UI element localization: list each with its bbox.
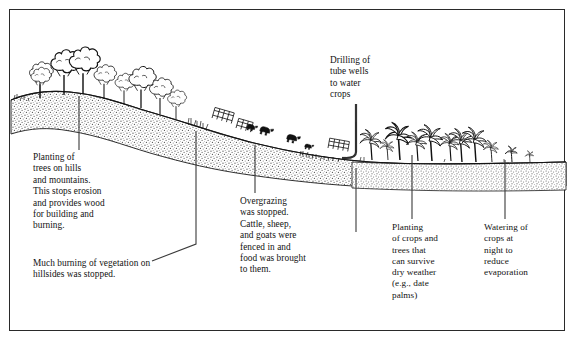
label-planting-crops: Planting of crops and trees that can sur… xyxy=(392,222,482,301)
animal-goat xyxy=(246,124,257,133)
label-planting-trees: Planting of trees on hills and mountains… xyxy=(33,152,183,232)
tube-well xyxy=(342,104,356,158)
animal-goat xyxy=(304,144,313,151)
animal-cow xyxy=(286,134,300,145)
plain-ground-extra xyxy=(352,162,566,191)
diagram-canvas: Planting of trees on hills and mountains… xyxy=(0,0,577,345)
animal-cow xyxy=(259,126,274,137)
label-tube-wells: Drilling of tube wells to water crops xyxy=(330,55,420,101)
label-watering-crops: Watering of crops at night to reduce eva… xyxy=(484,222,569,278)
palm-group xyxy=(360,122,534,162)
label-much-burning: Much burning of vegetation on hillsides … xyxy=(33,258,233,281)
label-overgrazing: Overgrazing was stopped. Cattle, sheep, … xyxy=(240,196,350,276)
